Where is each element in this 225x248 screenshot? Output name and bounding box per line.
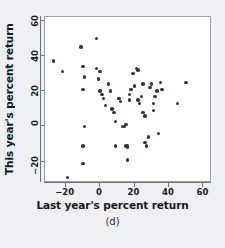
figure-caption: (d) [0,216,225,227]
data-point [98,70,101,73]
x-axis-tick-label: −20 [55,188,74,197]
data-point [119,100,122,103]
x-axis-tick-label: 0 [96,188,102,197]
data-point [52,59,55,62]
data-point [107,82,110,85]
data-point [128,98,131,101]
data-point [109,89,112,92]
data-point [128,93,131,96]
data-point [81,65,84,68]
data-point [152,102,155,105]
data-point [184,81,187,84]
data-point [126,146,129,149]
data-point [143,114,146,117]
x-axis-tick-label: 20 [128,188,140,197]
y-axis-tick-label: 20 [31,85,40,97]
x-axis-title: Last year's percent return [0,199,225,211]
data-point [150,82,153,85]
data-points-layer [45,17,210,181]
data-point [112,111,115,114]
data-point [104,104,107,107]
data-point [114,120,117,123]
y-axis-tick-label: −20 [31,156,40,175]
data-point [81,88,84,91]
y-axis-tick-label: 0 [31,120,40,126]
data-point [83,125,86,128]
data-point [100,93,103,96]
plot-area [44,16,211,182]
data-point [95,37,98,40]
data-point [66,176,69,179]
data-point [61,70,64,73]
x-axis: −200204060 [44,182,211,186]
data-point [157,132,160,135]
data-point [81,144,84,147]
data-point [153,95,156,98]
data-point [79,45,82,48]
data-point [97,77,100,80]
data-point [147,135,150,138]
data-point [140,95,143,98]
data-point [155,89,158,92]
y-axis-tick-label: 40 [31,50,40,62]
x-axis-tick-label: 40 [162,188,174,197]
data-point [124,123,127,126]
data-point [138,102,141,105]
data-point [141,82,144,85]
data-point [148,86,151,89]
x-axis-tick-label: 60 [196,188,208,197]
data-point [129,88,132,91]
data-point [160,88,163,91]
y-axis-title: This year's percent return [2,16,16,182]
data-point [176,102,179,105]
data-point [136,68,139,71]
data-point [114,144,117,147]
data-point [83,75,86,78]
data-point [131,72,134,75]
data-point [81,162,84,165]
data-point [145,144,148,147]
data-point [133,84,136,87]
y-axis-tick-label: 60 [31,15,40,27]
data-point [159,81,162,84]
data-point [126,158,129,161]
data-point [102,97,105,100]
scatter-plot-figure: This year's percent return −200204060 −2… [0,0,225,248]
data-point [152,109,155,112]
